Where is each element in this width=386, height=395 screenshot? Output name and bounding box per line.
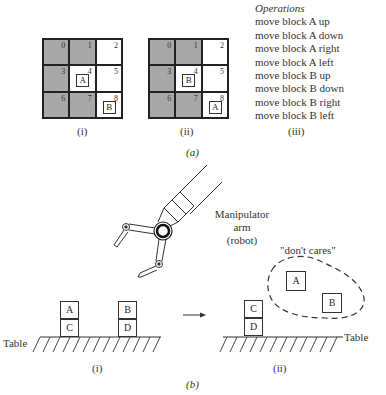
block-c: C — [244, 300, 263, 318]
table-label-left: Table — [3, 337, 27, 349]
robot-label-line: (robot) — [209, 234, 275, 247]
dont-care-block-b: B — [322, 293, 342, 313]
block-d: D — [244, 318, 263, 336]
part-b-drawing — [0, 0, 386, 395]
table-label-right: Table — [344, 331, 368, 343]
block-d: D — [118, 319, 137, 337]
robot-label: Manipulator arm (robot) — [209, 208, 275, 247]
dont-cares-label: "don't cares" — [280, 244, 336, 256]
scene-ii-caption: (ii) — [273, 362, 286, 374]
block-c: C — [60, 319, 79, 337]
block-b: B — [118, 301, 137, 319]
scene-i-caption: (i) — [92, 362, 102, 374]
robot-label-line: Manipulator — [209, 208, 275, 221]
dont-cares-region — [268, 256, 364, 318]
table-ii — [220, 337, 343, 352]
table-i — [33, 337, 161, 352]
block-a: A — [60, 301, 79, 319]
robot-label-line: arm — [209, 221, 275, 234]
dont-care-block-a: A — [286, 271, 306, 291]
part-b-label: (b) — [186, 378, 199, 390]
transition-arrow-icon — [183, 313, 206, 318]
robot-arm-icon — [114, 165, 222, 277]
